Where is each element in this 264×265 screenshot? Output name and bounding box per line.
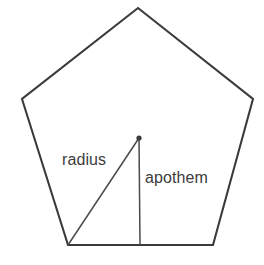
geometry-figure: radius apothem bbox=[0, 0, 264, 265]
apothem-label: apothem bbox=[145, 170, 208, 186]
pentagon-outline bbox=[22, 8, 253, 245]
center-point-dot bbox=[136, 135, 141, 140]
apothem-line bbox=[139, 138, 140, 245]
pentagon-diagram-svg bbox=[0, 0, 264, 265]
radius-label: radius bbox=[62, 152, 106, 168]
